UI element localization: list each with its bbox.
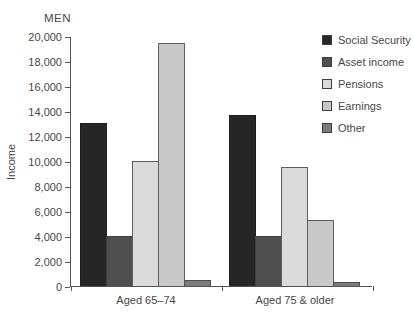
- legend-item-other: Other: [322, 117, 411, 139]
- y-tick: [65, 287, 70, 288]
- bar-other-aged-65-74: [184, 280, 211, 286]
- y-tick: [65, 62, 70, 63]
- y-tick-label: 16,000: [16, 81, 62, 93]
- legend-swatch-asset-income: [322, 57, 332, 67]
- y-tick: [65, 137, 70, 138]
- bar-chart-men-income: MEN Income Social SecurityAsset incomePe…: [0, 0, 413, 320]
- y-tick-label: 8,000: [16, 181, 62, 193]
- bar-social-security-aged-65-74: [80, 123, 107, 286]
- y-tick: [65, 87, 70, 88]
- legend-item-social-security: Social Security: [322, 29, 411, 51]
- chart-title: MEN: [44, 12, 71, 24]
- legend-swatch-earnings: [322, 101, 332, 111]
- y-tick: [65, 112, 70, 113]
- y-tick-label: 10,000: [16, 156, 62, 168]
- legend-item-earnings: Earnings: [322, 95, 411, 117]
- legend-swatch-social-security: [322, 35, 332, 45]
- y-tick-label: 6,000: [16, 206, 62, 218]
- y-tick-label: 18,000: [16, 56, 62, 68]
- y-tick-label: 4,000: [16, 231, 62, 243]
- legend-label-asset-income: Asset income: [338, 56, 404, 68]
- legend-swatch-other: [322, 123, 332, 133]
- legend-label-pensions: Pensions: [338, 78, 383, 90]
- bar-group-aged-75-older: [229, 115, 360, 286]
- y-tick: [65, 237, 70, 238]
- x-tick: [373, 286, 374, 291]
- x-tick: [71, 286, 72, 291]
- x-axis-label-aged-65-74: Aged 65–74: [116, 294, 175, 306]
- legend-swatch-pensions: [322, 79, 332, 89]
- y-tick-label: 14,000: [16, 106, 62, 118]
- y-tick: [65, 162, 70, 163]
- bar-pensions-aged-65-74: [132, 161, 159, 286]
- y-tick: [65, 187, 70, 188]
- x-axis-label-aged-75-older: Aged 75 & older: [256, 294, 335, 306]
- y-tick: [65, 37, 70, 38]
- legend-label-earnings: Earnings: [338, 100, 381, 112]
- legend-item-pensions: Pensions: [322, 73, 411, 95]
- bar-pensions-aged-75-older: [281, 167, 308, 286]
- y-tick-label: 12,000: [16, 131, 62, 143]
- bar-asset-income-aged-65-74: [106, 236, 133, 286]
- bar-earnings-aged-75-older: [307, 220, 334, 286]
- bar-earnings-aged-65-74: [158, 43, 185, 286]
- legend-item-asset-income: Asset income: [322, 51, 411, 73]
- legend: Social SecurityAsset incomePensionsEarni…: [322, 29, 411, 139]
- legend-label-other: Other: [338, 122, 366, 134]
- y-tick-label: 20,000: [16, 31, 62, 43]
- x-tick: [222, 286, 223, 291]
- y-tick-label: 2,000: [16, 256, 62, 268]
- y-tick: [65, 262, 70, 263]
- legend-label-social-security: Social Security: [338, 34, 411, 46]
- bar-asset-income-aged-75-older: [255, 236, 282, 286]
- bar-other-aged-75-older: [333, 282, 360, 286]
- y-tick: [65, 212, 70, 213]
- bar-social-security-aged-75-older: [229, 115, 256, 286]
- bar-group-aged-65-74: [80, 43, 211, 286]
- y-tick-label: 0: [16, 281, 62, 293]
